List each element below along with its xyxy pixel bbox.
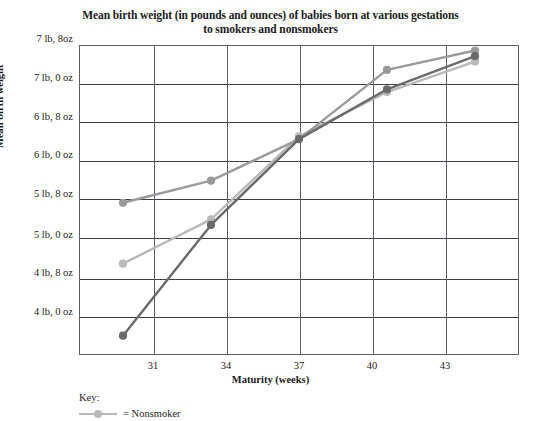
x-tick-label-40: 40 — [352, 361, 392, 372]
x-tick-label-34: 34 — [206, 361, 246, 372]
legend-swatch-nonsmoker — [79, 409, 117, 418]
x-tick-label-37: 37 — [279, 361, 319, 372]
legend-label-nonsmoker: = Nonsmoker — [123, 408, 181, 419]
x-tick-label-43: 43 — [425, 361, 465, 372]
chart-container: Mean birth weight (in pounds and ounces)… — [0, 0, 541, 421]
legend-marker-icon — [94, 410, 102, 418]
legend-heading: Key: — [79, 392, 181, 404]
x-axis-labels: 31 34 37 40 43 — [0, 0, 541, 421]
x-axis-title: Maturity (weeks) — [0, 374, 541, 385]
legend-item-nonsmoker: = Nonsmoker — [79, 407, 181, 420]
legend: Key: = Nonsmoker — [79, 392, 181, 420]
x-tick-label-31: 31 — [133, 361, 173, 372]
